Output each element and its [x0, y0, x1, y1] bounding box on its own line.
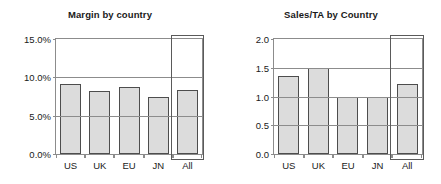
gridline — [56, 77, 202, 78]
bar-slot-all: All — [173, 39, 202, 154]
y-axis-tick-mark — [271, 68, 274, 69]
gridline — [274, 68, 422, 69]
x-axis-tick-mark — [201, 154, 202, 158]
bar-group: USUKEUJNAll — [56, 39, 202, 154]
bar-uk[interactable] — [89, 91, 110, 154]
bar-eu[interactable] — [119, 87, 140, 154]
chart-title: Sales/TA by Country — [221, 9, 441, 20]
bar-us[interactable] — [278, 76, 299, 154]
x-axis-tick-mark — [56, 154, 57, 158]
x-axis-tick-label: UK — [93, 160, 106, 171]
x-axis-tick-label: All — [402, 160, 413, 171]
x-axis-tick-mark — [333, 154, 334, 158]
x-axis-tick-label: EU — [341, 160, 354, 171]
x-axis-tick-mark — [114, 154, 115, 158]
y-axis-tick-label: 5.0% — [29, 110, 51, 121]
x-axis-tick-label: JN — [372, 160, 384, 171]
bar-all[interactable] — [397, 84, 418, 154]
chart-sales-ta-by-country: Sales/TA by Country USUKEUJNAll 0.00.51.… — [221, 0, 441, 184]
x-axis-tick-label: EU — [122, 160, 135, 171]
x-axis-tick-mark — [85, 154, 86, 158]
x-axis-tick-label: JN — [152, 160, 164, 171]
bar-slot-us: US — [56, 39, 85, 154]
gridline — [56, 116, 202, 117]
y-axis-tick-mark — [53, 39, 56, 40]
bar-uk[interactable] — [308, 68, 329, 154]
y-axis-tick-label: 15.0% — [24, 34, 51, 45]
chart-margin-by-country: Margin by country USUKEUJNAll 0.0%5.0%10… — [0, 0, 220, 184]
y-axis-tick-label: 0.0 — [256, 149, 269, 160]
figure-container: Margin by country USUKEUJNAll 0.0%5.0%10… — [0, 0, 441, 184]
y-axis-tick-mark — [53, 116, 56, 117]
x-axis-tick-mark — [392, 154, 393, 158]
y-axis-tick-mark — [53, 77, 56, 78]
gridline — [274, 125, 422, 126]
x-axis-tick-mark — [363, 154, 364, 158]
bar-all[interactable] — [177, 90, 198, 154]
x-axis-tick-label: US — [64, 160, 77, 171]
y-axis-tick-label: 10.0% — [24, 72, 51, 83]
chart-title: Margin by country — [0, 9, 220, 20]
y-axis-tick-mark — [271, 39, 274, 40]
y-axis-tick-mark — [271, 125, 274, 126]
x-axis-tick-mark — [274, 154, 275, 158]
bar-us[interactable] — [60, 84, 81, 154]
plot-area: USUKEUJNAll 0.0%5.0%10.0%15.0% — [55, 38, 203, 155]
y-axis-tick-mark — [271, 154, 274, 155]
x-axis-tick-mark — [173, 154, 174, 158]
x-axis-tick-label: UK — [312, 160, 325, 171]
bar-slot-uk: UK — [85, 39, 114, 154]
bar-jn[interactable] — [148, 97, 169, 155]
y-axis-tick-mark — [53, 154, 56, 155]
plot-area: USUKEUJNAll 0.00.51.01.52.0 — [273, 38, 423, 155]
y-axis-tick-label: 2.0 — [256, 34, 269, 45]
bar-slot-eu: EU — [114, 39, 143, 154]
y-axis-tick-label: 1.0 — [256, 91, 269, 102]
x-axis-tick-label: All — [182, 160, 193, 171]
bar-slot-jn: JN — [144, 39, 173, 154]
x-axis-tick-mark — [421, 154, 422, 158]
y-axis-tick-label: 0.0% — [29, 149, 51, 160]
x-axis-tick-mark — [304, 154, 305, 158]
x-axis-tick-label: US — [282, 160, 295, 171]
y-axis-tick-mark — [271, 97, 274, 98]
y-axis-tick-label: 1.5 — [256, 62, 269, 73]
x-axis-tick-mark — [144, 154, 145, 158]
y-axis-tick-label: 0.5 — [256, 120, 269, 131]
gridline — [274, 97, 422, 98]
